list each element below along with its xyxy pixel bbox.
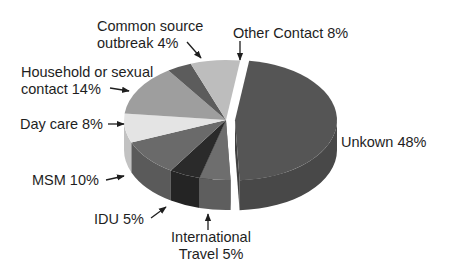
label-unknown: Unkown 48% <box>341 134 426 151</box>
label-line: Common source <box>97 18 203 35</box>
label-line: International <box>164 229 258 246</box>
pie-slices <box>124 60 337 210</box>
arrow-idu <box>151 207 166 218</box>
label-other-contact: Other Contact 8% <box>233 25 348 42</box>
pie-slice-side <box>199 178 230 210</box>
label-line: contact 14% <box>21 81 153 98</box>
label-line: Household or sexual <box>21 64 153 81</box>
label-line: IDU 5% <box>94 211 144 228</box>
label-line: Other Contact 8% <box>233 25 348 42</box>
label-line: Unkown 48% <box>341 134 426 151</box>
label-common-source: Common source outbreak 4% <box>97 18 203 52</box>
label-household: Household or sexual contact 14% <box>21 64 153 98</box>
label-line: MSM 10% <box>32 172 99 189</box>
label-idu: IDU 5% <box>94 211 144 228</box>
label-line: Day care 8% <box>20 116 103 133</box>
label-day-care: Day care 8% <box>20 116 103 133</box>
label-line: Travel 5% <box>164 246 258 263</box>
label-intl-travel: International Travel 5% <box>164 229 258 263</box>
arrow-msm <box>106 176 124 180</box>
label-msm: MSM 10% <box>32 172 99 189</box>
label-line: outbreak 4% <box>97 35 203 52</box>
